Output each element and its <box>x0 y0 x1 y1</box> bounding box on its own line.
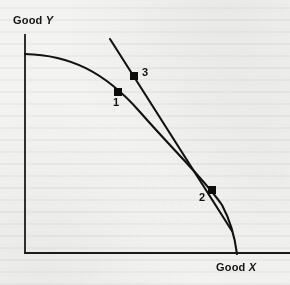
data-point-1 <box>114 88 122 96</box>
x-axis-label-text: Good <box>216 261 246 273</box>
point-label-3: 3 <box>142 66 148 78</box>
y-axis-variable: Y <box>46 14 54 26</box>
y-axis-label: Good Y <box>13 14 53 26</box>
x-axis-variable: X <box>249 261 257 273</box>
plot-canvas <box>0 0 290 285</box>
y-axis-label-text: Good <box>13 14 43 26</box>
data-point-3 <box>130 72 138 80</box>
tangent-line <box>110 39 232 231</box>
x-axis-label: Good X <box>216 261 256 273</box>
ppf-figure: Good Y Good X 1 2 3 <box>0 0 290 285</box>
data-point-2 <box>208 186 216 194</box>
point-label-1: 1 <box>113 96 119 108</box>
ppf-curve <box>25 54 237 254</box>
point-label-2: 2 <box>199 191 205 203</box>
